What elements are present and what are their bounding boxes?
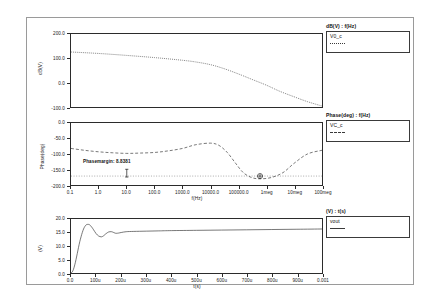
legend-swatch-vout (330, 228, 345, 229)
xtick-label: 100.0 (148, 190, 160, 195)
xtick-label: 1000.0 (175, 190, 190, 195)
xtick-label: 300u (141, 278, 152, 283)
legend-entry-v0c[interactable]: V0_c (330, 33, 342, 39)
xtick-mark (267, 186, 268, 189)
panel-transient: (V) : t(s) vout (V) 20.0 15.0 10.0 5.0 0… (27, 204, 415, 286)
panel-magnitude: dB(V) : f(Hz) V0_c dB(V) 200.0 100.0 0.0… (27, 18, 415, 108)
xtick-mark (70, 274, 71, 277)
xtick-mark (121, 274, 122, 277)
axis-title-x-transient: t(s) (193, 284, 200, 289)
ytick-magnitude-0: 200.0 (36, 31, 65, 36)
legend-entry-vcc[interactable]: VC_c (330, 122, 343, 128)
xtick-mark (154, 186, 155, 189)
axis-title-x-phase: f(Hz) (192, 196, 203, 201)
legend-swatch-v0c (330, 43, 345, 44)
xtick-label: 100000.0 (229, 190, 249, 195)
axis-title-y-transient: (V) (38, 238, 43, 260)
xtick-label: 700u (242, 278, 253, 283)
plot-area-transient[interactable] (70, 218, 323, 274)
ytick-transient-2: 10.0 (36, 244, 65, 249)
plot-area-phase[interactable] (70, 122, 323, 186)
xtick-mark (182, 186, 183, 189)
xtick-label: 600u (216, 278, 227, 283)
plot-frame: dB(V) : f(Hz) V0_c dB(V) 200.0 100.0 0.0… (26, 17, 414, 285)
xtick-label: 900u (292, 278, 303, 283)
xtick-label: 200u (115, 278, 126, 283)
xtick-mark (222, 274, 223, 277)
xtick-label: 0.0 (67, 278, 74, 283)
xtick-mark (95, 274, 96, 277)
xtick-mark (247, 274, 248, 277)
ytick-phase-2: -100.0 (36, 152, 65, 157)
xtick-mark (272, 274, 273, 277)
xtick-mark (197, 274, 198, 277)
xtick-mark (323, 274, 324, 277)
xtick-label: 800u (267, 278, 278, 283)
crossover-crosshair-marker (257, 174, 262, 179)
xtick-label: 100meg (314, 190, 331, 195)
xtick-label: 100u (90, 278, 101, 283)
legend-entry-vout[interactable]: vout (330, 218, 340, 224)
ytick-phase-0: 0.0 (36, 120, 65, 125)
xtick-mark (295, 186, 296, 189)
xtick-mark (126, 186, 127, 189)
xtick-mark (98, 186, 99, 189)
xtick-mark (298, 274, 299, 277)
xtick-mark (70, 186, 71, 189)
xtick-label: 10000.0 (202, 190, 219, 195)
ytick-transient-4: 0.0 (36, 272, 65, 277)
ytick-transient-3: 5.0 (36, 258, 65, 263)
legend-header-phase: Phase(deg) : f(Hz) (326, 112, 370, 118)
xtick-mark (171, 274, 172, 277)
xtick-label: 0.001 (317, 278, 329, 283)
xtick-label: 10meg (288, 190, 303, 195)
xtick-label: 500u (191, 278, 202, 283)
phase-curve-svg (71, 123, 322, 185)
simulation-plot-window: dB(V) : f(Hz) V0_c dB(V) 200.0 100.0 0.0… (0, 0, 436, 299)
legend-header-magnitude: dB(V) : f(Hz) (326, 23, 356, 29)
ytick-phase-3: -150.0 (36, 168, 65, 173)
phasemargin-annotation: Phasemargin: 8.8381 (83, 159, 131, 164)
ytick-phase-1: -50.0 (36, 136, 65, 141)
transient-curve-svg (71, 219, 322, 273)
panel-phase: Phase(deg) : f(Hz) VC_c Phase(deg) 0.0 -… (27, 106, 415, 204)
xtick-label: 0.1 (67, 190, 74, 195)
xtick-label: 10.0 (122, 190, 131, 195)
legend-header-transient: (V) : t(s) (326, 208, 346, 214)
ytick-phase-4: -200.0 (36, 184, 65, 189)
xtick-label: 400u (166, 278, 177, 283)
xtick-label: 1.0 (95, 190, 102, 195)
xtick-mark (146, 274, 147, 277)
xtick-mark (211, 186, 212, 189)
ytick-magnitude-1: 100.0 (36, 56, 65, 61)
xtick-mark (239, 186, 240, 189)
magnitude-curve-svg (71, 34, 322, 107)
ytick-transient-1: 15.0 (36, 230, 65, 235)
xtick-mark (323, 186, 324, 189)
ytick-magnitude-2: 0.0 (36, 81, 65, 86)
xtick-label: 1meg (261, 190, 273, 195)
plot-area-magnitude[interactable] (70, 33, 323, 108)
legend-swatch-vcc (330, 132, 345, 133)
ytick-transient-0: 20.0 (36, 216, 65, 221)
